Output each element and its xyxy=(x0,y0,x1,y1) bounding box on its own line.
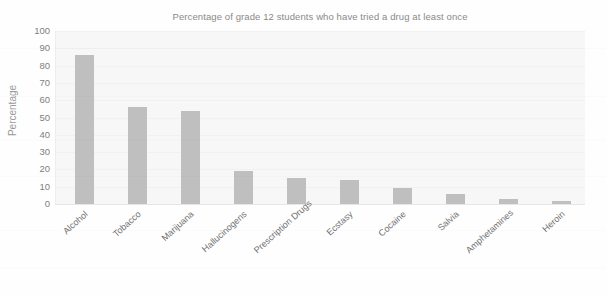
y-tick-label: 20 xyxy=(24,164,50,174)
y-axis-title: Percentage xyxy=(7,81,18,141)
bar xyxy=(552,201,571,204)
bar xyxy=(234,171,253,204)
y-tick-label: 40 xyxy=(24,130,50,140)
x-tick-label: Marijuana xyxy=(146,209,196,255)
bar xyxy=(446,194,465,204)
bar xyxy=(287,178,306,204)
x-tick-label: Ecstasy xyxy=(305,209,355,255)
gridline xyxy=(56,48,585,49)
bar xyxy=(75,55,94,204)
y-tick-label: 90 xyxy=(24,43,50,53)
x-tick-label: Salvia xyxy=(411,209,461,255)
x-tick-label: Heroin xyxy=(517,209,567,255)
x-tick-label: Prescription Drugs xyxy=(252,209,302,255)
x-tick-label: Cocaine xyxy=(358,209,408,255)
y-tick-label: 30 xyxy=(24,147,50,157)
x-tick-label: Amphetamines xyxy=(464,209,514,255)
bar xyxy=(128,107,147,204)
y-tick-label: 80 xyxy=(24,61,50,71)
y-tick-label: 50 xyxy=(24,113,50,123)
x-tick-label: Hallucinogens xyxy=(199,209,249,255)
x-axis-tick-labels: AlcoholTobaccoMarijuanaHallucinogensPres… xyxy=(55,207,607,295)
y-tick-label: 0 xyxy=(24,199,50,209)
x-tick-label: Tobacco xyxy=(93,209,143,255)
bar xyxy=(393,188,412,204)
scanned-page-background: Percentage of grade 12 students who have… xyxy=(0,0,607,295)
plot-area xyxy=(55,31,585,204)
gridline xyxy=(56,66,585,67)
gridline xyxy=(56,31,585,32)
gridline xyxy=(56,83,585,84)
y-tick-label: 70 xyxy=(24,78,50,88)
y-tick-label: 60 xyxy=(24,95,50,105)
gridline xyxy=(56,100,585,101)
bar-chart-figure: Percentage of grade 12 students who have… xyxy=(0,0,607,295)
y-tick-label: 100 xyxy=(24,26,50,36)
y-tick-label: 10 xyxy=(24,182,50,192)
bar xyxy=(181,111,200,204)
bar xyxy=(499,199,518,204)
chart-title: Percentage of grade 12 students who have… xyxy=(55,11,585,22)
bar xyxy=(340,180,359,204)
